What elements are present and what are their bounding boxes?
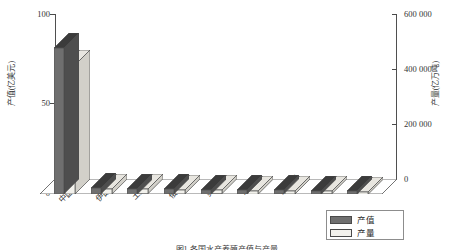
- legend-label-chanliang: 产量: [357, 229, 375, 238]
- chart-legend: 产值 产量: [326, 210, 404, 240]
- chart-container: 产值(亿美元) 产量(亿万吨) 100 50 0 600 000 400 000…: [0, 0, 453, 250]
- y-axis-right-title: 产量(亿万吨): [429, 52, 440, 116]
- bar-土耳其-chanzhi: [127, 189, 137, 194]
- y-tick-right-400000: 400 000: [404, 64, 453, 74]
- bar-中国-chanzhi: [54, 48, 64, 194]
- y-tick-right-0: 0: [404, 174, 453, 184]
- bar-日本-chanzhi: [347, 191, 357, 194]
- bar-乌克兰-chanzhi: [237, 190, 247, 194]
- legend-swatch-chanzhi: [330, 216, 352, 224]
- y-tick-right-200000: 200 000: [404, 119, 453, 129]
- legend-swatch-chanliang: [330, 229, 352, 237]
- bar-西班牙-chanzhi: [274, 190, 284, 194]
- legend-item-chanzhi: 产值: [330, 214, 400, 226]
- figure-caption: 图1 各国水产养殖产值与产量: [0, 243, 453, 250]
- y-tick-right-600000: 600 000: [404, 9, 453, 19]
- plot-area: [40, 10, 397, 194]
- bar-伊朗-chanzhi: [91, 188, 101, 194]
- legend-item-chanliang: 产量: [330, 227, 400, 239]
- y-axis-left-title: 产值(亿美元): [5, 52, 16, 116]
- bar-美国-chanzhi: [201, 190, 211, 194]
- legend-label-chanzhi: 产值: [357, 216, 375, 225]
- bar-埃及-chanzhi: [311, 191, 321, 194]
- bar-俄罗斯-chanzhi: [164, 189, 174, 194]
